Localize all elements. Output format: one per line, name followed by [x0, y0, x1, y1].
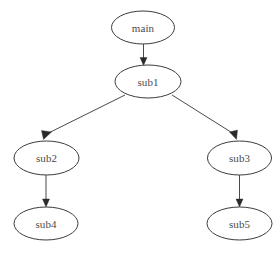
- edge-sub1-sub3[interactable]: [172, 95, 238, 140]
- arrowhead-icon: [42, 131, 52, 140]
- node-label: sub2: [36, 152, 57, 164]
- node-sub5[interactable]: sub5: [207, 207, 272, 240]
- node-sub4[interactable]: sub4: [14, 207, 78, 240]
- arrowhead-icon: [236, 199, 243, 207]
- node-label: sub3: [229, 152, 251, 164]
- node-sub3[interactable]: sub3: [208, 141, 272, 175]
- arrowhead-icon: [43, 199, 50, 207]
- node-label: sub1: [137, 76, 158, 88]
- node-sub2[interactable]: sub2: [14, 141, 79, 175]
- node-sub1[interactable]: sub1: [115, 65, 181, 98]
- node-label: main: [132, 22, 155, 34]
- edge-sub2-sub4[interactable]: [43, 175, 50, 207]
- diagram-canvas: main sub1 sub2 sub3 sub4 sub5: [0, 0, 280, 255]
- edge-main-sub1[interactable]: [140, 44, 147, 66]
- node-label: sub4: [35, 218, 57, 230]
- edge-sub3-sub5[interactable]: [236, 175, 243, 207]
- edge-line: [172, 95, 234, 134]
- call-graph: main sub1 sub2 sub3 sub4 sub5: [0, 0, 280, 255]
- node-main[interactable]: main: [112, 11, 175, 44]
- node-label: sub5: [229, 218, 251, 230]
- edge-sub1-sub2[interactable]: [42, 95, 126, 140]
- edge-line: [47, 95, 126, 134]
- arrowhead-icon: [140, 58, 147, 66]
